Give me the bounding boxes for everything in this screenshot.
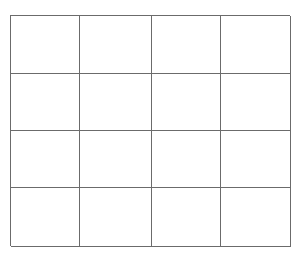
grid-cell-r1-c2 <box>80 16 152 74</box>
grid-cell-r3-c4 <box>221 131 291 188</box>
grid-cell-r1-c1 <box>11 16 80 74</box>
grid-cell-r4-c4 <box>221 188 291 247</box>
grid-cell-r2-c3 <box>152 74 221 131</box>
grid-cell-r2-c2 <box>80 74 152 131</box>
grid-cell-r1-c3 <box>152 16 221 74</box>
canvas <box>0 0 304 258</box>
grid-4x4 <box>10 15 290 246</box>
grid-cell-r3-c2 <box>80 131 152 188</box>
grid-cell-r4-c1 <box>11 188 80 247</box>
grid-cell-r4-c3 <box>152 188 221 247</box>
grid-cell-r4-c2 <box>80 188 152 247</box>
grid-cell-r3-c1 <box>11 131 80 188</box>
grid-cell-r2-c1 <box>11 74 80 131</box>
grid-cell-r1-c4 <box>221 16 291 74</box>
grid-cell-r3-c3 <box>152 131 221 188</box>
grid-cell-r2-c4 <box>221 74 291 131</box>
